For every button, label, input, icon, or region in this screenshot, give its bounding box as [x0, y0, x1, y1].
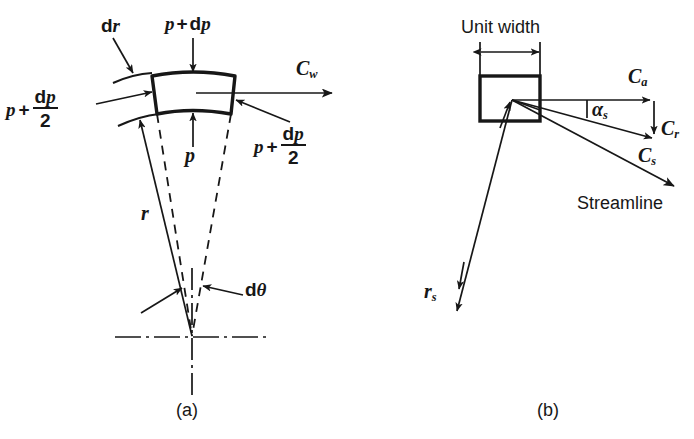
diagram-vector-layer	[0, 0, 694, 439]
pressure-right-arrow	[236, 100, 290, 122]
panel-a-caption: (a)	[176, 401, 198, 419]
label-streamline: Streamline	[577, 194, 663, 212]
panel-b-caption: (b)	[537, 401, 559, 419]
label-ca: Ca	[628, 66, 648, 88]
sector-right-dashed-edge	[192, 114, 231, 336]
panel-a-graphics	[96, 38, 332, 396]
element-square	[480, 76, 540, 121]
label-p-plus-dp-over-2-right: p+ dp 2	[254, 125, 306, 168]
label-r: r	[141, 203, 149, 223]
label-alpha-s: αs	[592, 99, 608, 121]
label-d-theta: dθ	[245, 280, 266, 299]
inner-arc-tick	[118, 114, 159, 126]
label-p-plus-dp: p+dp	[165, 14, 211, 33]
dtheta-right-arrow	[203, 286, 243, 295]
label-cs: Cs	[638, 145, 656, 167]
dr-leader-arrow	[113, 38, 133, 73]
label-p-plus-dp-over-2-left: p+ dp 2	[6, 88, 58, 131]
figure-root: dr p+dp Cw p+ dp 2 p+ dp 2 p	[0, 0, 694, 439]
dtheta-left-arrow	[141, 288, 182, 313]
label-p-bottom: p	[185, 145, 195, 165]
label-cr: Cr	[661, 118, 679, 140]
label-cw: Cw	[296, 58, 318, 80]
outer-arc-tick	[113, 73, 152, 83]
pressure-left-arrow	[96, 92, 152, 104]
label-dr: dr	[101, 16, 120, 35]
rs-radius-arrow	[457, 100, 512, 311]
label-unit-width: Unit width	[461, 18, 540, 36]
label-rs: rs	[424, 281, 437, 303]
